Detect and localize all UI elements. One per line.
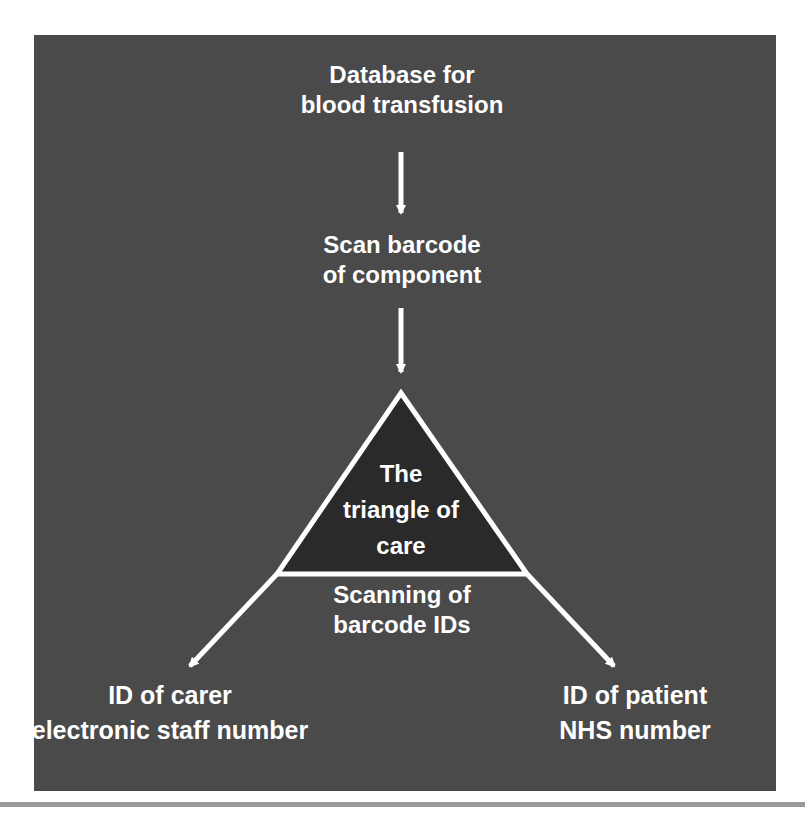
triangle-line3: care xyxy=(301,528,501,564)
database-line1: Database for xyxy=(252,60,552,90)
scan-component-line1: Scan barcode xyxy=(252,230,552,260)
carer-node: ID of carer electronic staff number xyxy=(20,678,320,748)
patient-line1: ID of patient xyxy=(505,678,765,713)
carer-line1: ID of carer xyxy=(20,678,320,713)
scanning-ids-line1: Scanning of xyxy=(252,580,552,610)
triangle-line1: The xyxy=(301,456,501,492)
database-node: Database for blood transfusion xyxy=(252,60,552,120)
scan-component-node: Scan barcode of component xyxy=(252,230,552,290)
carer-line2: electronic staff number xyxy=(20,713,320,748)
database-line2: blood transfusion xyxy=(252,90,552,120)
triangle-of-care-label: The triangle of care xyxy=(301,456,501,564)
scanning-ids-line2: barcode IDs xyxy=(252,610,552,640)
scan-component-line2: of component xyxy=(252,260,552,290)
scanning-ids-node: Scanning of barcode IDs xyxy=(252,580,552,640)
patient-line2: NHS number xyxy=(505,713,765,748)
patient-node: ID of patient NHS number xyxy=(505,678,765,748)
triangle-line2: triangle of xyxy=(301,492,501,528)
